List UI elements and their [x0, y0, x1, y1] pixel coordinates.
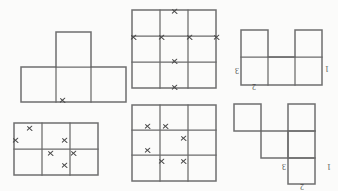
edge-label-bottom: 2: [252, 82, 256, 90]
grid-3x2-drawing: [13, 122, 101, 176]
zigzag-polyomino-drawing: [233, 103, 333, 185]
figure-grid-3x2: [13, 122, 101, 176]
edge-label-left: 3: [282, 162, 286, 170]
edge-label-bottom: 2: [300, 182, 304, 190]
figure-grid-3x3-bottom: [131, 104, 219, 182]
worksheet-sheet: 3 2 1: [0, 0, 338, 191]
t-tetromino-drawing: [20, 30, 130, 105]
figure-t-tetromino: [20, 30, 130, 105]
edge-label-left: 3: [235, 66, 239, 74]
edge-label-right: 1: [327, 162, 331, 170]
figure-u-pentomino: 3 2 1: [240, 29, 332, 87]
figure-grid-3x3-top: [131, 9, 219, 89]
u-pentomino-drawing: [240, 29, 332, 87]
grid-3x3-bottom-drawing: [131, 104, 219, 182]
edge-label-right: 1: [325, 64, 329, 72]
figure-zigzag-polyomino: 3 2 1: [233, 103, 333, 185]
grid-3x3-top-drawing: [131, 9, 219, 89]
